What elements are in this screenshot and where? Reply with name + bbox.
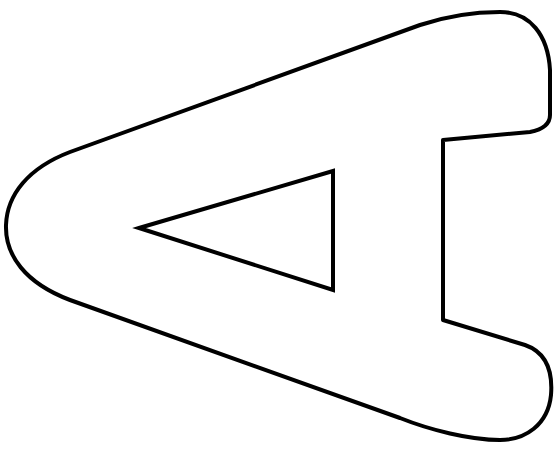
letter-a-outline-icon	[0, 0, 555, 450]
drawing-canvas: Outline of a letter A rotated 90 degrees…	[0, 0, 555, 450]
